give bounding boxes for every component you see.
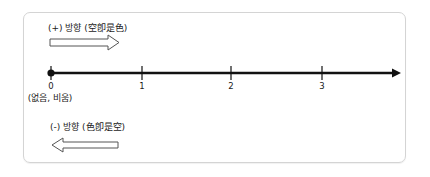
number-line: [47, 66, 401, 80]
tick-label-3: 3: [319, 82, 324, 91]
axis-arrowhead-icon: [392, 69, 401, 78]
tick-label-0: 0: [48, 82, 53, 91]
number-line-diagram: [0, 0, 430, 177]
tick-label-2: 2: [228, 82, 233, 91]
right-arrow-icon: [50, 35, 119, 50]
tick-label-1: 1: [139, 82, 144, 91]
left-arrow-icon: [52, 138, 118, 152]
negative-direction-label: (-) 방향 (色卽是空): [50, 123, 125, 132]
origin-note: (없음, 비움): [28, 94, 73, 103]
